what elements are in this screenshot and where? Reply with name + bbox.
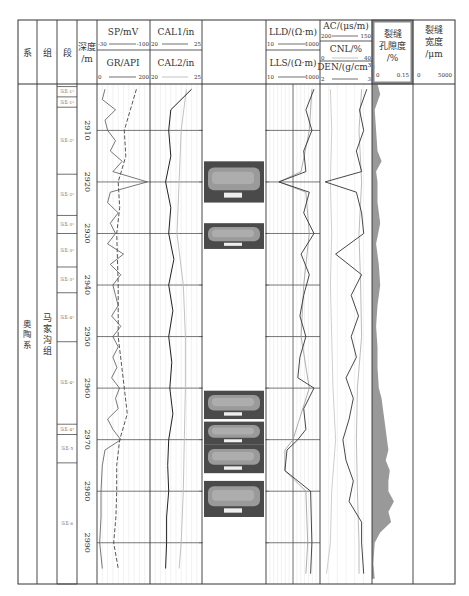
formation-label: 组: [43, 345, 52, 356]
ac-scale-min: 200: [321, 33, 332, 39]
core-photo: [204, 481, 264, 517]
header-depth-unit: /m: [81, 54, 93, 64]
system-label: 陶: [23, 329, 32, 339]
header-depth: 深度: [78, 41, 96, 52]
header-den: DEN/(g/cm³): [317, 62, 375, 72]
ac-scale-max: 150: [361, 33, 372, 39]
header-cnl: CNL/%: [330, 44, 363, 54]
core-photo: [204, 445, 264, 473]
well-log-chart: 系组段深度/mSP/mV-30-100GR/API0200CAL1/in2025…: [0, 0, 469, 596]
lld-scale-max: 1000: [305, 41, 319, 47]
core-photo: [204, 422, 264, 445]
member-label: 马五-5: [61, 445, 73, 451]
member-label: 马五-4²: [60, 379, 74, 385]
frac-por-min: 0: [376, 72, 380, 78]
core-photo-track: [204, 161, 264, 517]
depth-label: 2950: [83, 326, 92, 346]
stratigraphy-columns: 奥陶系马家沟组马五-1¹马五-1²马五-2¹马五-2²马五-3¹马五-3²马五-…: [23, 87, 92, 584]
system-label: 奥: [23, 319, 32, 329]
header-gr: GR/API: [106, 58, 140, 68]
member-label: 马五-3³: [60, 276, 74, 282]
gr-scale-max: 200: [139, 74, 150, 80]
member-label: 马五-2²: [60, 191, 74, 197]
header-cal1: CAL1/in: [158, 27, 195, 37]
depth-label: 2930: [83, 223, 92, 243]
cal1-scale-min: 20: [151, 41, 158, 47]
member-label: 马五-3²: [60, 247, 74, 253]
cal2-curve: [177, 89, 186, 568]
depth-label: 2940: [83, 275, 92, 295]
cnl-scale-max: 40: [364, 55, 371, 61]
lls-curve: [279, 89, 312, 574]
lls-scale-min: 10: [267, 74, 274, 80]
cal1-curve: [166, 89, 192, 568]
core-photo: [204, 161, 264, 202]
header-frac-porosity-1: 孔隙度: [379, 40, 406, 51]
den-scale-max: 3: [368, 76, 372, 82]
den-scale-min: 2: [321, 76, 325, 82]
gr-scale-min: 0: [98, 74, 102, 80]
header-sp: SP/mV: [108, 27, 139, 37]
header-frac-porosity-2: /%: [387, 53, 399, 63]
header-member: 段: [63, 47, 72, 58]
depth-label: 2970: [83, 429, 92, 449]
member-label: 马五-3¹: [60, 221, 74, 227]
system-label: 系: [23, 340, 32, 350]
member-label: 马五-1¹: [60, 88, 74, 94]
frac-width-max: 5000: [438, 72, 452, 78]
cal1-scale-max: 25: [194, 41, 201, 47]
cal2-scale-max: 25: [194, 74, 201, 80]
cnl-curve: [327, 89, 336, 574]
sp-scale-max: -100: [137, 41, 150, 47]
depth-label: 2920: [83, 172, 92, 192]
member-label: 马五-4¹: [60, 314, 74, 320]
header-frac-porosity-0: 裂缝: [384, 28, 402, 39]
member-label: 马五-2¹: [60, 137, 74, 143]
header-lls: LLS/(Ω·m): [269, 58, 316, 68]
header-frac-width-1: 宽度: [425, 36, 443, 47]
sp-curve: [114, 89, 137, 568]
core-photo: [204, 223, 264, 249]
sp-scale-min: -30: [98, 41, 107, 47]
header-lld: LLD/(Ω·m): [269, 27, 317, 37]
header-row: 系组段深度/mSP/mV-30-100GR/API0200CAL1/in2025…: [23, 21, 452, 83]
cnl-scale-min: 0: [321, 55, 325, 61]
frac-por-max: 0.15: [397, 72, 410, 78]
lls-scale-max: 1000: [305, 74, 319, 80]
member-label: 马五-1²: [60, 99, 74, 105]
depth-label: 2910: [83, 120, 92, 140]
member-label: 马五-4³: [60, 426, 74, 432]
formation-label: 家: [43, 323, 52, 334]
cal2-scale-min: 20: [151, 74, 158, 80]
header-cal2: CAL2/in: [158, 58, 195, 68]
depth-label: 2990: [83, 533, 92, 553]
header-formation: 组: [43, 47, 52, 58]
depth-label: 2980: [83, 481, 92, 501]
frac-porosity-fill: [372, 84, 394, 579]
frac-width-min: 0: [417, 72, 421, 78]
lld-scale-min: 10: [267, 41, 274, 47]
formation-label: 沟: [43, 334, 52, 345]
header-frac-width-0: 裂缝: [425, 24, 443, 35]
formation-label: 马: [43, 313, 52, 323]
core-photo: [204, 391, 264, 419]
header-system: 系: [23, 48, 32, 58]
member-label: 马五-6: [61, 520, 73, 526]
lld-curve: [279, 89, 314, 574]
header-frac-width-2: /μm: [425, 49, 443, 59]
depth-label: 2960: [83, 378, 92, 398]
header-ac: AC/(μs/m): [322, 21, 368, 31]
